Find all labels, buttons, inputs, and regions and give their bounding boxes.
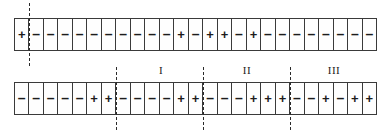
minus-sign: – bbox=[76, 27, 84, 41]
plus-sign: + bbox=[351, 92, 359, 105]
minus-sign: – bbox=[119, 27, 127, 41]
sign-cell: + bbox=[247, 19, 261, 50]
plus-sign: + bbox=[177, 92, 185, 105]
plus-sign: + bbox=[264, 92, 272, 105]
sign-cell: – bbox=[131, 19, 145, 50]
minus-sign: – bbox=[61, 27, 69, 41]
minus-sign: – bbox=[18, 91, 26, 105]
cut-marker bbox=[203, 67, 204, 130]
sign-cell: – bbox=[232, 19, 246, 50]
minus-sign: – bbox=[134, 27, 142, 41]
sign-sequence-diagram: +––––––––––+–++–+–––––––– –––––++––––++–… bbox=[0, 0, 387, 134]
block-label: II bbox=[227, 64, 267, 76]
minus-sign: – bbox=[235, 27, 243, 41]
cut-marker bbox=[116, 67, 117, 130]
minus-sign: – bbox=[337, 27, 345, 41]
sign-cell: + bbox=[247, 83, 261, 114]
sign-cell: – bbox=[44, 19, 58, 50]
plus-sign: + bbox=[105, 92, 113, 105]
minus-sign: – bbox=[365, 27, 373, 41]
minus-sign: – bbox=[76, 91, 84, 105]
sign-cell: – bbox=[334, 19, 348, 50]
sign-cell: – bbox=[87, 19, 101, 50]
sign-cell: – bbox=[160, 19, 174, 50]
minus-sign: – bbox=[235, 91, 243, 105]
sign-cell: – bbox=[131, 83, 145, 114]
sign-strip-row-2: –––––++––––++–––+++––+–++ bbox=[14, 82, 377, 115]
sign-cell: + bbox=[87, 83, 101, 114]
sign-cell: – bbox=[189, 19, 203, 50]
sign-cell: + bbox=[203, 19, 217, 50]
sign-cell: – bbox=[232, 83, 246, 114]
minus-sign: – bbox=[119, 91, 127, 105]
sign-cell: + bbox=[174, 19, 188, 50]
sign-cell: – bbox=[160, 83, 174, 114]
minus-sign: – bbox=[90, 27, 98, 41]
sign-cell: – bbox=[73, 19, 87, 50]
cut-marker bbox=[29, 3, 30, 66]
sign-cell: – bbox=[363, 19, 376, 50]
plus-sign: + bbox=[250, 28, 258, 41]
sign-cell: – bbox=[102, 19, 116, 50]
block-label: I bbox=[141, 64, 181, 76]
sign-cell: + bbox=[189, 83, 203, 114]
sign-cell: + bbox=[363, 83, 376, 114]
minus-sign: – bbox=[322, 27, 330, 41]
sign-cell: – bbox=[334, 83, 348, 114]
plus-sign: + bbox=[192, 92, 200, 105]
plus-sign: + bbox=[221, 28, 229, 41]
minus-sign: – bbox=[163, 91, 171, 105]
sign-cell: + bbox=[218, 19, 232, 50]
sign-cell: – bbox=[145, 19, 159, 50]
sign-cell: – bbox=[58, 19, 72, 50]
plus-sign: + bbox=[279, 92, 287, 105]
sign-cell: + bbox=[102, 83, 116, 114]
minus-sign: – bbox=[32, 91, 40, 105]
minus-sign: – bbox=[337, 91, 345, 105]
sign-cell: – bbox=[305, 83, 319, 114]
block-label: III bbox=[314, 64, 354, 76]
sign-cell: – bbox=[29, 83, 43, 114]
plus-sign: + bbox=[250, 92, 258, 105]
sign-cell: – bbox=[44, 83, 58, 114]
sign-cell: – bbox=[15, 83, 29, 114]
sign-cell: – bbox=[116, 19, 130, 50]
sign-cell: – bbox=[276, 19, 290, 50]
sign-cell: + bbox=[174, 83, 188, 114]
plus-sign: + bbox=[206, 28, 214, 41]
sign-cell: – bbox=[290, 83, 304, 114]
sign-cell: – bbox=[305, 19, 319, 50]
sign-cell: – bbox=[203, 83, 217, 114]
sign-cell: – bbox=[348, 19, 362, 50]
minus-sign: – bbox=[351, 27, 359, 41]
minus-sign: – bbox=[148, 91, 156, 105]
minus-sign: – bbox=[105, 27, 113, 41]
minus-sign: – bbox=[264, 27, 272, 41]
minus-sign: – bbox=[221, 91, 229, 105]
minus-sign: – bbox=[32, 27, 40, 41]
sign-cell: + bbox=[319, 83, 333, 114]
minus-sign: – bbox=[47, 91, 55, 105]
sign-strip-row-1: +––––––––––+–++–+–––––––– bbox=[14, 18, 377, 51]
sign-cell: + bbox=[15, 19, 29, 50]
minus-sign: – bbox=[308, 27, 316, 41]
minus-sign: – bbox=[148, 27, 156, 41]
minus-sign: – bbox=[192, 27, 200, 41]
sign-cell: – bbox=[29, 19, 43, 50]
minus-sign: – bbox=[47, 27, 55, 41]
sign-cell: + bbox=[348, 83, 362, 114]
minus-sign: – bbox=[206, 91, 214, 105]
sign-cell: – bbox=[290, 19, 304, 50]
sign-cell: – bbox=[218, 83, 232, 114]
sign-cell: – bbox=[261, 19, 275, 50]
sign-cell: – bbox=[145, 83, 159, 114]
plus-sign: + bbox=[177, 28, 185, 41]
sign-cell: + bbox=[276, 83, 290, 114]
plus-sign: + bbox=[18, 28, 26, 41]
cut-marker bbox=[290, 67, 291, 130]
sign-cell: – bbox=[319, 19, 333, 50]
minus-sign: – bbox=[293, 91, 301, 105]
minus-sign: – bbox=[308, 91, 316, 105]
sign-cell: + bbox=[261, 83, 275, 114]
minus-sign: – bbox=[61, 91, 69, 105]
